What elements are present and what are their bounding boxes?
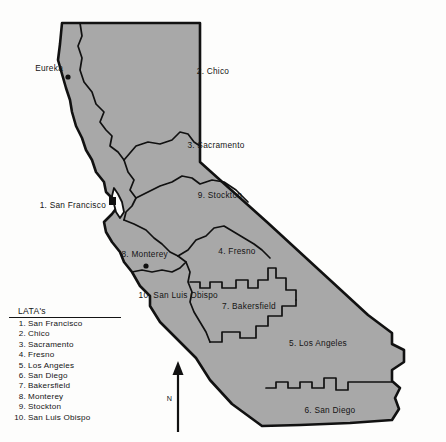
- legend-item-label: San Diego: [28, 371, 68, 380]
- legend-item-1: 1.San Francisco: [9, 319, 127, 329]
- san-francisco-city-marker: [109, 197, 116, 205]
- legend-item-10: 10.San Luis Obispo: [9, 413, 127, 423]
- legend-item-5: 5.Los Angeles: [9, 361, 127, 371]
- legend-item-label: Fresno: [28, 350, 54, 359]
- legend-item-6: 6.San Diego: [9, 371, 127, 381]
- legend-item-number: 7.: [9, 381, 26, 391]
- legend-item-8: 8.Monterey: [9, 392, 127, 402]
- legend-item-2: 2.Chico: [9, 329, 127, 339]
- legend-item-label: Sacramento: [28, 340, 74, 349]
- legend-item-number: 4.: [9, 350, 26, 360]
- lata-label-monterey: 8. Monterey: [121, 249, 168, 259]
- legend-item-number: 1.: [9, 319, 26, 329]
- lata-label-san-diego: 6. San Diego: [305, 405, 356, 415]
- legend: LATA's 1.San Francisco 2.Chico 3.Sacrame…: [9, 306, 127, 423]
- legend-item-9: 9.Stockton: [9, 402, 127, 412]
- legend-item-number: 8.: [9, 392, 26, 402]
- legend-item-7: 7.Bakersfield: [9, 381, 127, 391]
- legend-item-number: 10.: [9, 413, 26, 423]
- north-arrow-label: N: [167, 394, 172, 403]
- legend-item-number: 3.: [9, 340, 26, 350]
- lata-label-stockton: 9. Stockton: [198, 190, 242, 200]
- lata-label-bakersfield: 7. Bakersfield: [222, 301, 276, 311]
- legend-list: 1.San Francisco 2.Chico 3.Sacramento 4.F…: [9, 319, 127, 423]
- legend-item-label: Bakersfield: [28, 381, 70, 390]
- legend-item-label: Chico: [28, 329, 50, 338]
- legend-item-label: Monterey: [28, 392, 63, 401]
- legend-item-label: San Francisco: [28, 319, 82, 328]
- legend-title: LATA's: [9, 306, 127, 317]
- legend-item-number: 2.: [9, 329, 26, 339]
- legend-item-number: 5.: [9, 361, 26, 371]
- monterey-city-marker: [143, 263, 148, 268]
- lata-label-fresno: 4. Fresno: [218, 246, 255, 256]
- legend-item-label: Los Angeles: [28, 361, 74, 370]
- legend-item-label: San Luis Obispo: [28, 413, 90, 422]
- lata-label-sacramento: 3. Sacramento: [187, 140, 244, 150]
- eureka-city-marker: [65, 74, 70, 79]
- lata-label-san-francisco: 1. San Francisco: [40, 200, 106, 210]
- eureka-label: Eureka: [35, 63, 63, 73]
- north-arrow-head: [173, 361, 184, 375]
- california-lata-map-page: Eureka 2. Chico 3. Sacramento 9. Stockto…: [0, 0, 446, 442]
- lata-label-chico: 2. Chico: [197, 66, 230, 76]
- legend-item-number: 9.: [9, 402, 26, 412]
- legend-item-number: 6.: [9, 371, 26, 381]
- legend-item-3: 3.Sacramento: [9, 340, 127, 350]
- lata-label-san-luis-obispo: 10. San Luis Obispo: [139, 290, 219, 300]
- legend-item-label: Stockton: [28, 402, 61, 411]
- north-arrow: N: [167, 361, 184, 432]
- legend-item-4: 4.Fresno: [9, 350, 127, 360]
- lata-label-los-angeles: 5. Los Angeles: [289, 338, 347, 348]
- legend-divider: [9, 317, 121, 318]
